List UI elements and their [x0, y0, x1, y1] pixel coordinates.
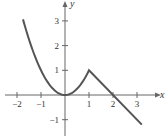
- x-tick-label: −1: [36, 99, 46, 109]
- ticks: −2−1123−1123: [12, 16, 140, 125]
- y-tick-label: −1: [49, 115, 59, 125]
- x-tick-label: 3: [135, 99, 140, 109]
- function-graph: −2−1123−1123 x y: [0, 0, 166, 136]
- x-axis-label: x: [159, 89, 165, 100]
- y-tick-label: 1: [55, 65, 60, 75]
- y-axis-label: y: [69, 0, 75, 9]
- y-tick-label: 3: [55, 16, 60, 26]
- y-axis-arrow-icon: [63, 1, 68, 7]
- y-tick-label: 2: [55, 41, 60, 51]
- axes: [5, 1, 161, 136]
- x-tick-label: 2: [111, 99, 116, 109]
- x-tick-label: 1: [87, 99, 92, 109]
- x-tick-label: −2: [12, 99, 22, 109]
